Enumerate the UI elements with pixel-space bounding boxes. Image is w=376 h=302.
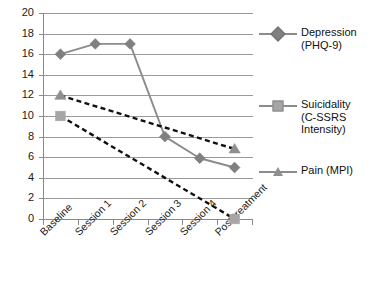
- series-line: [60, 116, 234, 219]
- data-point-marker: [90, 39, 101, 50]
- legend-swatch: [258, 165, 298, 178]
- legend-label: Suicidality (C-SSRS Intensity): [298, 98, 351, 136]
- series-line: [60, 44, 234, 168]
- data-point-marker: [229, 162, 240, 173]
- legend-entry-2[interactable]: Suicidality (C-SSRS Intensity): [258, 98, 351, 136]
- data-point-marker: [125, 39, 136, 50]
- legend-entry-3[interactable]: Pain (MPI): [258, 164, 353, 178]
- legend-swatch: [258, 99, 298, 112]
- series-1: [55, 39, 240, 173]
- data-point-marker: [230, 214, 240, 224]
- legend-marker-triangle-icon: [273, 167, 283, 176]
- series-line: [60, 95, 234, 149]
- data-point-marker: [194, 153, 205, 164]
- legend-label: Pain (MPI): [298, 164, 353, 177]
- legend-swatch: [258, 27, 298, 40]
- legend-label: Depression (PHQ-9): [298, 26, 357, 51]
- legend-entry-1[interactable]: Depression (PHQ-9): [258, 26, 357, 51]
- series-3: [55, 90, 240, 153]
- chart-container: 02468101214161820 BaselineSession 1Sessi…: [0, 0, 376, 302]
- chart-legend: Depression (PHQ-9)Suicidality (C-SSRS In…: [258, 12, 376, 212]
- series-2: [56, 111, 240, 224]
- data-point-marker: [55, 49, 66, 60]
- legend-marker-diamond-icon: [270, 26, 286, 42]
- data-point-marker: [160, 131, 171, 142]
- data-point-marker: [55, 90, 66, 99]
- legend-marker-square-icon: [273, 100, 284, 111]
- data-point-marker: [56, 111, 66, 121]
